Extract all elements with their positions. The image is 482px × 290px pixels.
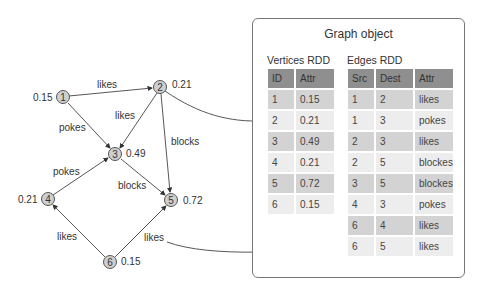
panel-title: Graph object [253, 27, 464, 41]
svg-text:4: 4 [45, 194, 51, 205]
node-value: 0.21 [172, 79, 192, 90]
table-row: 25blockes [348, 153, 453, 172]
edge-label: likes [97, 79, 117, 90]
graph-object-panel: Graph object Vertices RDD Edges RDD ID A… [252, 18, 465, 278]
edge-label: likes [57, 231, 77, 242]
table-row: 20.21 [268, 111, 334, 130]
node: 2 0.21 [154, 79, 192, 94]
table-row: 60.15 [268, 195, 334, 214]
vertices-caption: Vertices RDD [267, 54, 330, 66]
node-value: 0.72 [183, 195, 203, 206]
edge-label: likes [115, 110, 135, 121]
edges-caption: Edges RDD [347, 54, 402, 66]
table-row: 23likes [348, 132, 453, 151]
table-row: 12likes [348, 90, 453, 109]
svg-text:1: 1 [60, 92, 66, 103]
svg-text:2: 2 [157, 82, 163, 93]
node-value: 0.21 [18, 194, 38, 205]
table-row: 30.49 [268, 132, 334, 151]
table-header: ID Attr [268, 69, 334, 88]
node: 5 0.72 [165, 194, 203, 207]
table-row: 64likes [348, 216, 453, 235]
edge-2-5 [161, 94, 170, 192]
node-value: 0.15 [121, 256, 141, 267]
edge-label: likes [144, 232, 164, 243]
table-row: 35blockes [348, 174, 453, 193]
table-row: 10.15 [268, 90, 334, 109]
node: 3 0.49 [109, 148, 146, 161]
edge-label: blocks [118, 180, 146, 191]
node-value: 0.15 [33, 92, 53, 103]
svg-text:5: 5 [168, 195, 174, 206]
node: 4 0.21 [18, 193, 55, 206]
edge-label: pokes [59, 122, 86, 133]
node-value: 0.49 [126, 148, 146, 159]
vertex-link-arrow [165, 91, 263, 121]
table-row: 43pokes [348, 195, 453, 214]
svg-text:3: 3 [112, 149, 118, 160]
node: 6 0.15 [104, 256, 141, 269]
edge-label: pokes [53, 166, 80, 177]
vertices-table: ID Attr 10.15 20.21 30.49 40.21 50.72 60… [266, 67, 336, 216]
node: 1 0.15 [33, 91, 70, 104]
table-row: 40.21 [268, 153, 334, 172]
svg-text:6: 6 [107, 257, 113, 268]
table-row: 50.72 [268, 174, 334, 193]
table-row: 13pokes [348, 111, 453, 130]
edges-table: Src Dest Attr 12likes 13pokes 23likes 25… [346, 67, 455, 258]
edge-label: blocks [171, 136, 199, 147]
table-header: Src Dest Attr [348, 69, 453, 88]
table-row: 65likes [348, 237, 453, 256]
